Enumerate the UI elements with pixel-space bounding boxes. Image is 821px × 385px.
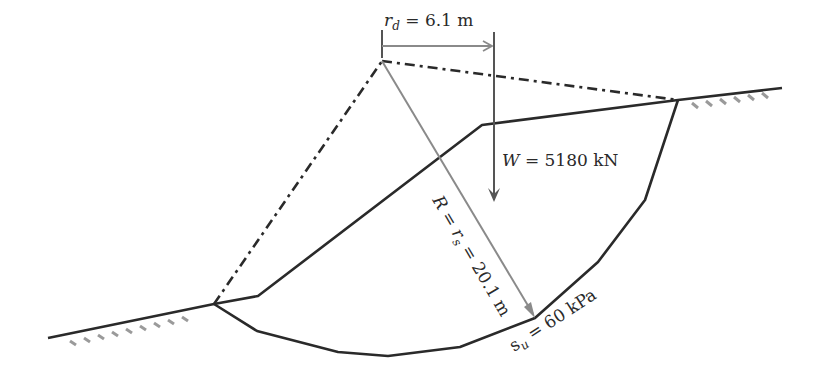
radius-arrow-head: [524, 302, 535, 318]
su-label: su = 60 kPa: [505, 284, 601, 358]
rd-label: rd = 6.1 m: [384, 10, 473, 33]
radius-line-left: [214, 61, 382, 304]
ground-surface: [48, 88, 782, 338]
slope-stability-diagram: rd = 6.1 m W = 5180 kN R = rs = 20.1 m s…: [0, 0, 821, 385]
radius-arrow-line: [382, 61, 533, 314]
weight-label: W = 5180 kN: [502, 150, 619, 170]
diagram-svg: rd = 6.1 m W = 5180 kN R = rs = 20.1 m s…: [0, 0, 821, 385]
radius-line-right: [382, 61, 678, 100]
